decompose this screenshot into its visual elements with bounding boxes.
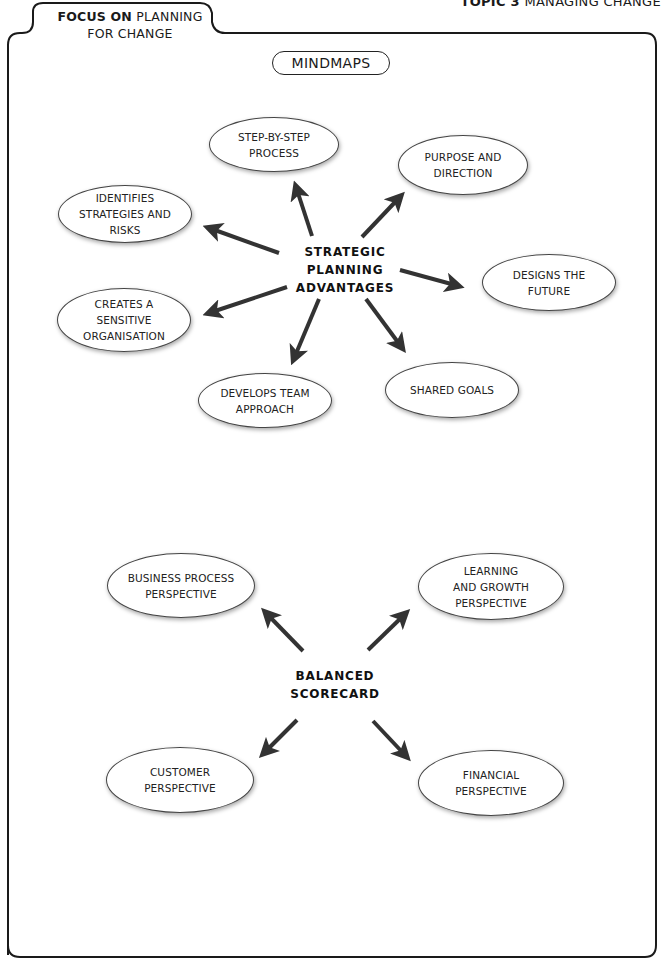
node-text: SENSITIVE [83, 312, 165, 328]
node-text: STEP-BY-STEP [238, 129, 310, 145]
node-customer-perspective: CUSTOMERPERSPECTIVE [106, 747, 254, 813]
node-text: BUSINESS PROCESS [128, 570, 235, 586]
arrow-to-creates [212, 287, 287, 312]
node-text: APPROACH [220, 401, 309, 417]
node-text: PERSPECTIVE [144, 780, 216, 796]
arrow-to-financial [373, 721, 404, 754]
node-purpose-and-direction: PURPOSE ANDDIRECTION [398, 135, 528, 195]
center-line: STRATEGIC [280, 243, 410, 261]
arrow-to-customer [266, 720, 297, 751]
strategic-planning-center: STRATEGIC PLANNING ADVANTAGES [280, 243, 410, 297]
arrow-to-business-process [268, 615, 303, 651]
node-text: FINANCIAL [455, 767, 527, 783]
node-text: PURPOSE AND [425, 149, 502, 165]
arrow-to-develops [295, 299, 319, 356]
center-line: SCORECARD [270, 685, 400, 703]
node-text: DESIGNS THE [513, 267, 586, 283]
node-develops-team-approach: DEVELOPS TEAMAPPROACH [198, 373, 332, 428]
balanced-scorecard-center: BALANCED SCORECARD [270, 667, 400, 703]
node-text: SHARED GOALS [410, 382, 494, 398]
node-text: PERSPECTIVE [453, 595, 529, 611]
node-text: CUSTOMER [144, 764, 216, 780]
node-shared-goals: SHARED GOALS [385, 362, 519, 418]
node-text: CREATES A [83, 296, 165, 312]
node-text: LEARNING [453, 563, 529, 579]
node-text: AND GROWTH [453, 579, 529, 595]
arrow-to-purpose [362, 199, 398, 237]
node-text: DEVELOPS TEAM [220, 385, 309, 401]
node-creates-sensitive-organisation: CREATES ASENSITIVEORGANISATION [57, 288, 191, 352]
center-line: BALANCED [270, 667, 400, 685]
node-text: DIRECTION [425, 165, 502, 181]
node-designs-the-future: DESIGNS THEFUTURE [482, 254, 616, 311]
arrow-to-shared-goals [366, 299, 400, 345]
node-text: PERSPECTIVE [455, 783, 527, 799]
node-identifies-strategies: IDENTIFIESSTRATEGIES ANDRISKS [58, 185, 192, 243]
node-learning-growth-perspective: LEARNINGAND GROWTHPERSPECTIVE [418, 553, 564, 620]
center-line: PLANNING [280, 261, 410, 279]
arrow-to-learning [368, 616, 403, 650]
node-step-by-step-process: STEP-BY-STEPPROCESS [209, 117, 339, 172]
node-financial-perspective: FINANCIALPERSPECTIVE [418, 750, 564, 816]
arrow-to-identifies [212, 229, 279, 253]
node-text: ORGANISATION [83, 328, 165, 344]
node-text: PROCESS [238, 145, 310, 161]
node-text: RISKS [79, 222, 171, 238]
center-line: ADVANTAGES [280, 279, 410, 297]
node-text: PERSPECTIVE [128, 586, 235, 602]
node-text: FUTURE [513, 283, 586, 299]
node-text: IDENTIFIES [79, 190, 171, 206]
arrow-to-step-by-step [297, 190, 312, 236]
node-business-process-perspective: BUSINESS PROCESSPERSPECTIVE [107, 553, 255, 618]
node-text: STRATEGIES AND [79, 206, 171, 222]
